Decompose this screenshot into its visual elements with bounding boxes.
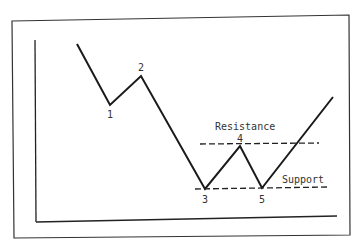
- y-axis: [35, 40, 36, 222]
- point-label-3: 3: [202, 194, 208, 205]
- resistance-line: [200, 143, 319, 144]
- point-label-4: 4: [237, 133, 243, 144]
- resistance-label: Resistance: [215, 121, 275, 132]
- support-label: Support: [282, 174, 324, 185]
- point-label-5: 5: [259, 194, 265, 205]
- point-label-1: 1: [107, 109, 113, 120]
- price-line: [77, 44, 333, 189]
- support-resistance-diagram: 1 2 3 4 5 Resistance Support: [0, 0, 358, 251]
- outer-frame: [12, 15, 350, 238]
- x-axis: [36, 216, 337, 222]
- point-label-2: 2: [138, 62, 144, 73]
